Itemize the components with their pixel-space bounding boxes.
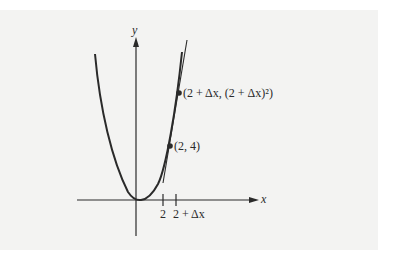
x-axis-arrow-icon <box>249 197 259 203</box>
x-axis-label: x <box>261 193 266 205</box>
tick-label-2: 2 <box>160 208 166 220</box>
point-label-2-plus-dx: (2 + Δx, (2 + Δx)²) <box>183 87 273 99</box>
point-label-2-4: (2, 4) <box>174 140 200 152</box>
parabola-diagram <box>0 0 396 267</box>
secant-line <box>163 40 187 183</box>
point-2-4 <box>167 143 173 149</box>
y-axis-arrow-icon <box>133 37 139 47</box>
y-axis-label: y <box>132 24 137 36</box>
parabola-curve <box>95 52 182 200</box>
point-2-plus-dx <box>176 90 182 96</box>
tick-label-2-plus-dx: 2 + Δx <box>173 208 205 220</box>
